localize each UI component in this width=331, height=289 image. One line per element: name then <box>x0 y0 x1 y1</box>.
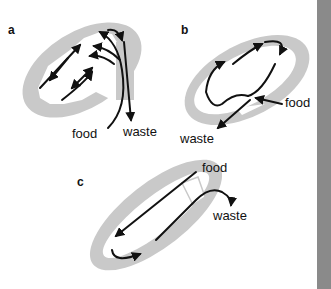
panel-b-food-label: food <box>285 95 310 110</box>
panel-c-food-label: food <box>202 160 227 175</box>
panel-a-label: a <box>8 23 15 37</box>
panel-b-label: b <box>181 23 188 37</box>
panel-b: b food waste <box>170 16 324 146</box>
panel-c: c food waste <box>73 141 247 289</box>
panel-c-waste-label: waste <box>212 208 247 223</box>
panel-a-waste-label: waste <box>122 124 157 139</box>
panel-a-food-label: food <box>72 126 97 141</box>
panel-b-waste-label: waste <box>179 131 214 146</box>
panel-c-label: c <box>77 175 84 189</box>
panel-a: a food waste <box>6 3 158 141</box>
diagram-canvas: a food waste b food waste c <box>0 0 331 289</box>
